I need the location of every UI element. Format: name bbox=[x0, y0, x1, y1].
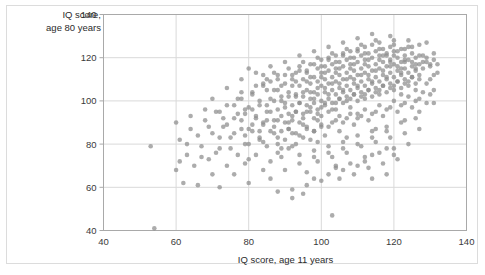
data-point bbox=[326, 125, 331, 130]
data-point bbox=[225, 163, 230, 168]
data-point bbox=[268, 79, 273, 84]
data-point bbox=[417, 109, 422, 114]
data-point bbox=[174, 120, 179, 125]
data-point bbox=[286, 94, 291, 99]
y-tick-label: 100 bbox=[81, 95, 97, 106]
data-point bbox=[272, 71, 277, 76]
data-point bbox=[417, 77, 422, 82]
data-point bbox=[435, 62, 440, 67]
data-point bbox=[326, 58, 331, 63]
data-point bbox=[275, 107, 280, 112]
data-point bbox=[432, 101, 437, 106]
data-point bbox=[239, 118, 244, 123]
data-point bbox=[283, 105, 288, 110]
data-point bbox=[206, 157, 211, 162]
data-point bbox=[432, 88, 437, 93]
data-point bbox=[243, 142, 248, 147]
data-point bbox=[283, 168, 288, 173]
data-point bbox=[402, 53, 407, 58]
x-tick-label: 140 bbox=[459, 236, 475, 247]
data-point bbox=[355, 163, 360, 168]
data-point bbox=[359, 42, 364, 47]
data-point bbox=[373, 140, 378, 145]
data-point bbox=[254, 83, 259, 88]
data-point bbox=[337, 176, 342, 181]
data-point bbox=[410, 45, 415, 50]
data-point bbox=[246, 157, 251, 162]
data-point bbox=[334, 71, 339, 76]
data-point bbox=[297, 64, 302, 69]
data-point bbox=[344, 83, 349, 88]
data-point bbox=[225, 103, 230, 108]
data-point bbox=[395, 109, 400, 114]
data-point bbox=[417, 73, 422, 78]
data-point bbox=[392, 153, 397, 158]
data-point bbox=[428, 62, 433, 67]
data-point bbox=[326, 144, 331, 149]
data-point bbox=[286, 120, 291, 125]
data-point bbox=[395, 49, 400, 54]
x-tick-label: 80 bbox=[243, 236, 254, 247]
data-point bbox=[239, 90, 244, 95]
data-point bbox=[308, 105, 313, 110]
data-point bbox=[312, 148, 317, 153]
data-point bbox=[381, 114, 386, 119]
data-point bbox=[268, 176, 273, 181]
data-point bbox=[348, 112, 353, 117]
data-point bbox=[250, 107, 255, 112]
data-point bbox=[377, 150, 382, 155]
data-point bbox=[243, 161, 248, 166]
data-point bbox=[290, 131, 295, 136]
data-point bbox=[301, 60, 306, 65]
data-point bbox=[188, 114, 193, 119]
data-point bbox=[232, 131, 237, 136]
data-point bbox=[388, 86, 393, 91]
data-point bbox=[366, 88, 371, 93]
data-point bbox=[381, 83, 386, 88]
data-point bbox=[265, 118, 270, 123]
data-point bbox=[257, 103, 262, 108]
data-point bbox=[334, 166, 339, 171]
data-point bbox=[319, 75, 324, 80]
data-point bbox=[428, 77, 433, 82]
data-point bbox=[301, 122, 306, 127]
data-point bbox=[388, 105, 393, 110]
plot-canvas: 406080100120140 406080100120140 bbox=[0, 0, 485, 275]
data-point bbox=[359, 94, 364, 99]
data-point bbox=[359, 66, 364, 71]
data-point bbox=[254, 71, 259, 76]
data-point bbox=[402, 101, 407, 106]
data-point bbox=[424, 40, 429, 45]
data-point bbox=[413, 116, 418, 121]
data-point bbox=[359, 144, 364, 149]
data-point bbox=[330, 75, 335, 80]
data-point bbox=[373, 109, 378, 114]
data-point bbox=[254, 114, 259, 119]
x-axis-title: IQ score, age 11 years bbox=[103, 254, 468, 265]
data-point bbox=[315, 112, 320, 117]
data-point bbox=[402, 81, 407, 86]
data-point bbox=[304, 109, 309, 114]
data-point bbox=[330, 155, 335, 160]
data-point bbox=[279, 146, 284, 151]
data-point bbox=[370, 94, 375, 99]
data-point bbox=[210, 96, 215, 101]
data-point bbox=[319, 105, 324, 110]
scatter-plot-figure: 406080100120140 406080100120140 IQ score… bbox=[0, 0, 485, 275]
data-point bbox=[330, 81, 335, 86]
data-point bbox=[399, 66, 404, 71]
tick-marks bbox=[100, 15, 104, 231]
data-point bbox=[348, 161, 353, 166]
data-point bbox=[290, 114, 295, 119]
data-point bbox=[275, 150, 280, 155]
data-point bbox=[330, 213, 335, 218]
data-point bbox=[326, 96, 331, 101]
data-point bbox=[294, 142, 299, 147]
data-point bbox=[402, 47, 407, 52]
data-point bbox=[250, 122, 255, 127]
data-point bbox=[421, 66, 426, 71]
data-point bbox=[355, 83, 360, 88]
data-point bbox=[315, 140, 320, 145]
data-point bbox=[337, 66, 342, 71]
data-point bbox=[392, 75, 397, 80]
